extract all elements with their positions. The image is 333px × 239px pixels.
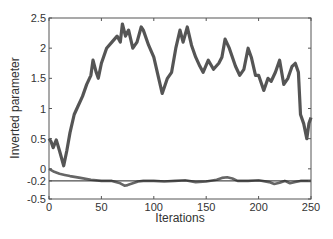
y-tick-label: 1 <box>40 103 46 115</box>
x-tick-label: 200 <box>249 201 267 213</box>
x-tick-label: 250 <box>302 201 320 213</box>
y-tick-label: 2.5 <box>31 12 46 24</box>
plot-frame <box>49 18 311 199</box>
series-line-upper <box>49 24 311 166</box>
x-axis-label: Iterations <box>155 211 204 225</box>
y-tick-label: 2 <box>40 42 46 54</box>
y-tick-label: 1.5 <box>31 72 46 84</box>
y-tick-label: -0.2 <box>27 175 46 187</box>
x-tick-label: 0 <box>46 201 52 213</box>
y-tick-label: -0.5 <box>27 193 46 205</box>
x-tick-label: 50 <box>95 201 107 213</box>
plot-series-group <box>49 24 311 186</box>
line-chart: 050100150200250 -0.5-0.200.511.522.5 Ite… <box>0 0 333 239</box>
y-tick-label: 0.5 <box>31 133 46 145</box>
y-axis-label: Inverted parameter <box>8 57 22 158</box>
series-line-lower <box>49 169 311 186</box>
y-tick-label: 0 <box>40 163 46 175</box>
